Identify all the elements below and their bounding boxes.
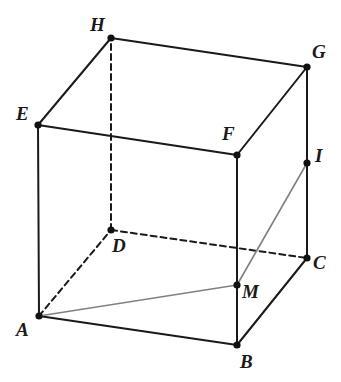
vertex-dot-G	[303, 63, 310, 70]
vertex-label-H: H	[90, 15, 105, 34]
vertex-dot-B	[233, 341, 240, 348]
vertex-label-F: F	[222, 124, 235, 143]
edge-A-D	[39, 230, 111, 316]
vertex-dot-A	[35, 312, 42, 319]
vertex-label-D: D	[112, 236, 126, 255]
edge-D-C	[111, 230, 307, 258]
edge-F-G	[237, 67, 307, 155]
vertex-dot-I	[303, 159, 310, 166]
vertex-dot-H	[107, 34, 114, 41]
vertex-label-A: A	[16, 320, 29, 339]
edge-G-H	[111, 38, 307, 67]
vertex-dot-C	[303, 254, 310, 261]
hidden-edges-group	[39, 38, 307, 316]
edge-H-E	[38, 38, 111, 125]
segment-A-M	[39, 285, 237, 316]
cube-diagram: ABCDEFGHIM	[0, 0, 341, 382]
edge-A-B	[39, 316, 237, 345]
vertex-label-C: C	[313, 253, 326, 272]
vertex-label-M: M	[242, 282, 259, 301]
vertex-label-I: I	[315, 146, 322, 165]
vertex-dots-group	[34, 34, 310, 348]
vertex-label-E: E	[16, 104, 29, 123]
edge-A-E	[38, 125, 39, 316]
vertex-dot-F	[233, 151, 240, 158]
vertex-dot-M	[233, 281, 240, 288]
vertex-label-G: G	[312, 42, 326, 61]
vertex-dot-D	[107, 226, 114, 233]
cube-geometry-svg	[0, 0, 341, 382]
vertex-label-B: B	[240, 352, 253, 371]
vertex-dot-E	[34, 121, 41, 128]
solid-edges-group	[38, 38, 307, 345]
segment-M-I	[237, 163, 307, 285]
edge-E-F	[38, 125, 237, 155]
